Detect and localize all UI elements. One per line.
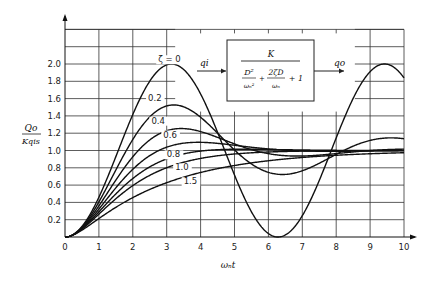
x-tick-label: 8 bbox=[333, 242, 338, 252]
x-tick-label: 10 bbox=[399, 242, 410, 252]
y-label-numerator: Qo bbox=[25, 123, 38, 133]
x-tick-label: 3 bbox=[164, 242, 169, 252]
curve-label: 0.8 bbox=[167, 149, 181, 159]
tf-plus1: + bbox=[259, 75, 265, 83]
tf-plus2: + 1 bbox=[289, 74, 303, 83]
block-diagram: qi qo K D² ωₙ² + 2ζD ωₙ + 1 bbox=[197, 40, 346, 101]
tf-den-term1-den: ωₙ² bbox=[244, 82, 255, 90]
curve-label: 0.2 bbox=[148, 93, 162, 103]
x-tick-label: 7 bbox=[300, 242, 305, 252]
y-tick-label: 0.6 bbox=[47, 180, 61, 190]
curve-label: 0.6 bbox=[163, 130, 177, 140]
y-tick-label: 0.4 bbox=[47, 197, 61, 207]
y-tick-label: 1.2 bbox=[47, 128, 61, 138]
tf-numerator: K bbox=[267, 49, 275, 59]
input-label: qi bbox=[200, 58, 209, 68]
tf-den-term2-num: 2ζD bbox=[268, 68, 284, 77]
x-tick-label: 4 bbox=[198, 242, 203, 252]
x-tick-label: 0 bbox=[62, 242, 67, 252]
y-label-denominator: Kqis bbox=[21, 137, 40, 146]
y-tick-label: 1.4 bbox=[47, 111, 61, 121]
y-tick-label: 0.8 bbox=[47, 163, 61, 173]
y-tick-label: 1.8 bbox=[47, 76, 61, 86]
output-label: qo bbox=[334, 58, 346, 68]
x-tick-label: 9 bbox=[367, 242, 372, 252]
tf-den-term2-den: ωₙ bbox=[272, 82, 280, 90]
x-tick-label: 6 bbox=[266, 242, 271, 252]
x-axis-label: ωₙt bbox=[221, 260, 236, 270]
curve-label: 0.4 bbox=[151, 116, 165, 126]
x-tick-label: 2 bbox=[130, 242, 135, 252]
x-tick-label: 1 bbox=[96, 242, 101, 252]
y-tick-label: 1.0 bbox=[47, 146, 61, 156]
y-tick-label: 1.6 bbox=[47, 94, 61, 104]
curve-label: 1.0 bbox=[175, 162, 189, 172]
tf-den-term1-num: D² bbox=[243, 68, 254, 77]
y-tick-label: 2.0 bbox=[47, 59, 61, 69]
curve-label: 1.5 bbox=[184, 176, 198, 186]
y-tick-label: 0.2 bbox=[47, 215, 61, 225]
curve-label: ζ = 0 bbox=[158, 54, 181, 64]
y-axis-label: Qo Kqis bbox=[21, 123, 41, 146]
x-tick-label: 5 bbox=[232, 242, 237, 252]
step-response-chart: ζ = 00.20.40.60.81.01.5 0123456789100.20… bbox=[0, 0, 427, 284]
